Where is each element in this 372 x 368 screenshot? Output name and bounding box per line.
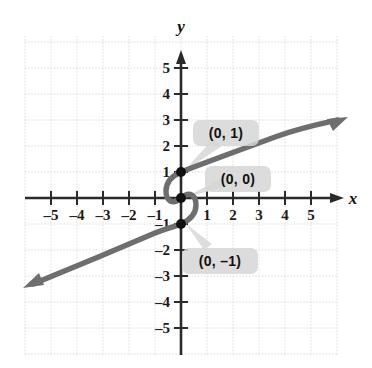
x-tick-label: 4 <box>281 207 289 223</box>
axes <box>25 50 344 355</box>
x-tick-label: –3 <box>95 207 111 223</box>
x-tick-label: 2 <box>229 207 237 223</box>
y-tick-label: –2 <box>154 242 170 258</box>
callout-0-1: (0, 1) <box>193 120 259 146</box>
callout-0-0: (0, 0) <box>205 166 271 192</box>
x-tick-label: –2 <box>121 207 137 223</box>
x-tick-label: 3 <box>255 207 263 223</box>
x-axis-arrowhead <box>330 193 344 203</box>
callout-label: (0, 1) <box>209 125 243 141</box>
y-axis-label: y <box>175 17 185 36</box>
y-tick-label: 5 <box>163 60 171 76</box>
y-tick-label: –3 <box>154 268 170 284</box>
y-tick-label: 2 <box>163 138 171 154</box>
y-tick-label: 4 <box>163 86 171 102</box>
callout-0-m1: (0, –1) <box>182 248 258 274</box>
y-tick-label: –4 <box>154 294 171 310</box>
point-marker-0-0 <box>176 193 186 203</box>
coordinate-plane-figure: –5 –4 –3 –2 –1 1 2 3 4 5 –1 –2 –3 –4 –5 … <box>0 0 372 368</box>
curve-arrowhead-start <box>23 273 44 288</box>
y-tick-label: 3 <box>163 112 171 128</box>
y-tick-label: –5 <box>154 320 170 336</box>
callout-label: (0, –1) <box>199 253 242 269</box>
x-tick-label: –5 <box>43 207 59 223</box>
leader-line-0-m1 <box>186 224 212 250</box>
x-axis-label: x <box>348 189 358 208</box>
y-axis-arrowhead <box>176 50 186 64</box>
x-tick-label: –4 <box>69 207 86 223</box>
point-marker-0-1 <box>176 167 186 177</box>
x-tick-label: 5 <box>307 207 315 223</box>
callout-label: (0, 0) <box>221 171 255 187</box>
x-tick-label: 1 <box>203 207 211 223</box>
point-marker-0-m1 <box>176 219 186 229</box>
